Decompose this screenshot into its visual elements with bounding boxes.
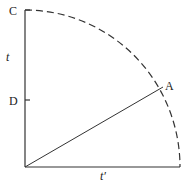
label-a: A: [165, 79, 174, 93]
label-c: C: [9, 4, 17, 18]
radius-line-to-a: [25, 87, 163, 167]
label-t: t: [6, 50, 10, 64]
label-d: D: [9, 94, 18, 108]
label-t-prime: t′: [100, 169, 106, 183]
spacetime-diagram: C t D A t′: [0, 0, 184, 191]
dashed-arc: [25, 10, 180, 167]
